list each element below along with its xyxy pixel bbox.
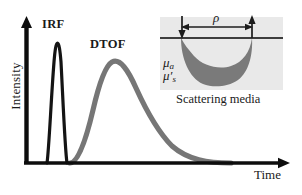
inset-caption: Scattering media xyxy=(176,92,260,107)
inset-scattering-media xyxy=(160,15,283,90)
y-axis-label: Intensity xyxy=(8,46,24,126)
figure-canvas: Intensity Time IRF DTOF ρ μa μ′s Scatter… xyxy=(0,0,302,195)
irf-curve xyxy=(47,43,67,163)
reduced-scattering-coefficient-label: μ′s xyxy=(163,68,176,84)
mu-s-subscript: s xyxy=(172,74,176,84)
rho-separation-label: ρ xyxy=(213,10,219,26)
dtof-curve-label: DTOF xyxy=(90,37,126,52)
y-axis-arrowhead xyxy=(21,16,32,28)
irf-curve-label: IRF xyxy=(42,17,64,32)
x-axis-label: Time xyxy=(254,167,281,183)
